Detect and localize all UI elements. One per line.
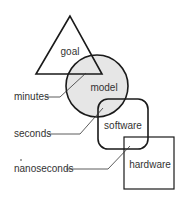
model-label: model xyxy=(90,82,117,93)
seconds-label: seconds xyxy=(14,128,51,139)
goal-label: goal xyxy=(61,46,80,57)
stray-dot xyxy=(20,159,22,161)
timescale-diagram: goal model software hardware minutes sec… xyxy=(0,0,188,202)
software-label: software xyxy=(104,120,142,131)
hardware-label: hardware xyxy=(129,159,171,170)
minutes-label: minutes xyxy=(14,91,49,102)
nanoseconds-label: nanoseconds xyxy=(14,163,74,174)
